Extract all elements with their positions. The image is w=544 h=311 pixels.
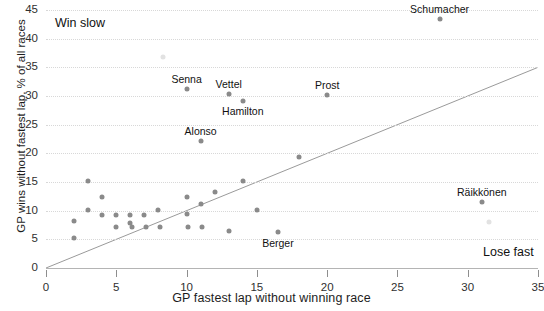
annotation-win-slow: Win slow bbox=[55, 16, 105, 30]
x-axis-tick-mark bbox=[538, 270, 539, 277]
x-axis-tick-mark bbox=[116, 270, 117, 277]
annotation-lose-fast: Lose fast bbox=[483, 245, 534, 259]
x-axis-tick-mark bbox=[257, 270, 258, 277]
x-axis-tick-mark bbox=[468, 270, 469, 277]
x-axis-tick-mark bbox=[327, 270, 328, 277]
x-axis-title: GP fastest lap without winning race bbox=[0, 291, 543, 305]
x-axis-tick-mark bbox=[397, 270, 398, 277]
x-axis-tick-mark bbox=[187, 270, 188, 277]
x-axis-tick-mark bbox=[46, 270, 47, 277]
